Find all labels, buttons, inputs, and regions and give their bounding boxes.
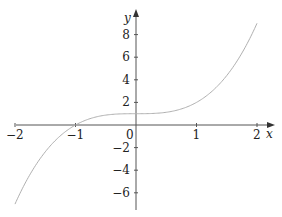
x-tick-label: 1	[193, 128, 201, 142]
x-tick-label: −2	[6, 128, 24, 142]
y-tick-label: 2	[122, 95, 130, 109]
y-tick-label: −6	[112, 186, 130, 200]
x-axis-label: x	[266, 127, 273, 141]
y-axis-arrow-icon	[133, 9, 139, 17]
y-tick-label: 8	[122, 28, 130, 42]
y-tick-label: −2	[112, 141, 130, 155]
y-tick-label: 4	[122, 73, 130, 87]
chart: −2−10128642−2−4−6 x y	[0, 0, 282, 217]
axes	[16, 9, 275, 210]
y-axis-label: y	[123, 11, 131, 25]
y-tick-label: 6	[122, 50, 130, 64]
x-tick-label: −1	[67, 128, 85, 142]
x-tick-label: 2	[253, 128, 261, 142]
y-tick-label: −4	[112, 163, 130, 177]
